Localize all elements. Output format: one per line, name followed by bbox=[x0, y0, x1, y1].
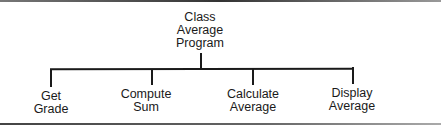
connector-display-average bbox=[352, 67, 354, 84]
bottom-border-rule bbox=[0, 123, 441, 125]
connector-get-grade bbox=[50, 69, 52, 87]
child-node-get-grade: Get Grade bbox=[34, 90, 69, 116]
child-label-line-2: Sum bbox=[121, 101, 172, 114]
root-label-line-3: Program bbox=[176, 37, 224, 50]
child-label-line-2: Grade bbox=[34, 103, 69, 116]
horizontal-branch-bar bbox=[50, 68, 353, 70]
top-border-rule bbox=[0, 0, 441, 2]
child-label-line-2: Average bbox=[329, 100, 375, 113]
connector-compute-sum bbox=[151, 69, 153, 85]
child-node-display-average: Display Average bbox=[329, 87, 375, 113]
root-node-class-average-program: Class Average Program bbox=[176, 11, 224, 50]
child-node-compute-sum: Compute Sum bbox=[121, 88, 172, 114]
root-stem-connector bbox=[200, 53, 202, 69]
child-node-calculate-average: Calculate Average bbox=[227, 88, 279, 114]
child-label-line-2: Average bbox=[227, 101, 279, 114]
connector-calculate-average bbox=[252, 68, 254, 85]
